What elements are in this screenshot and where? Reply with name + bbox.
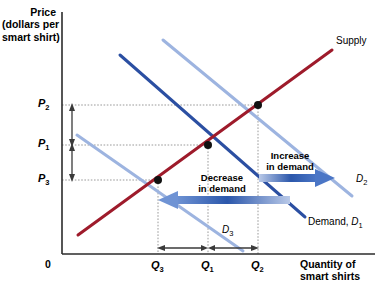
price-guide-lines: [62, 105, 258, 180]
diagram-canvas: [0, 0, 381, 289]
quantity-arrow-left-tail: [201, 245, 208, 251]
price-change-arrows: [69, 103, 75, 182]
quantity-tick-q2-sub: 2: [260, 265, 264, 274]
increase-in-demand-line1: Increase: [254, 150, 326, 161]
x-axis-title-line1: Quantity of: [300, 258, 360, 270]
price-tick-p1-sub: 1: [45, 143, 49, 152]
demand-curve-d1-label-letter: D: [351, 216, 358, 227]
quantity-arrow-left-head: [157, 245, 165, 251]
demand-curve-d1-label-text: Demand,: [308, 216, 351, 227]
x-axis-title: Quantity of smart shirts: [300, 258, 360, 283]
price-arrow-up-head: [69, 103, 75, 111]
quantity-tick-q3-sub: 3: [160, 265, 164, 274]
quantity-tick-q1-sub: 1: [210, 265, 214, 274]
y-axis-title-line1: Price: [2, 6, 56, 18]
supply-curve-label: Supply: [336, 35, 367, 47]
equilibrium-point-e1: [204, 141, 212, 149]
equilibrium-point-e3: [154, 176, 162, 184]
quantity-arrow-right-tail: [208, 245, 215, 251]
decrease-in-demand-label: Decrease in demand: [185, 172, 259, 194]
decrease-in-demand-line1: Decrease: [185, 172, 259, 183]
price-arrow-down-tail: [69, 143, 75, 151]
price-tick-p2: P2: [38, 97, 50, 113]
quantity-tick-q2-letter: Q: [251, 259, 260, 271]
price-tick-p3: P3: [38, 172, 50, 188]
quantity-tick-q1-letter: Q: [201, 259, 210, 271]
increase-in-demand-label: Increase in demand: [254, 150, 326, 172]
y-axis-title: Price (dollars per smart shirt): [2, 6, 56, 43]
quantity-tick-q2: Q2: [251, 259, 264, 275]
supply-demand-diagram: Price (dollars per smart shirt) Quantity…: [0, 0, 381, 289]
demand-curve-d2-label: D2: [356, 173, 367, 188]
x-axis-title-line2: smart shirts: [300, 270, 360, 282]
demand-curve-d1-label: Demand, D1: [308, 216, 363, 231]
origin-label: 0: [45, 258, 51, 270]
price-tick-p1: P1: [38, 137, 50, 153]
equilibrium-point-e2: [254, 101, 262, 109]
price-tick-p3-sub: 3: [45, 178, 49, 187]
price-arrow-down-head: [69, 174, 75, 182]
demand-curve-d3-label: D3: [222, 224, 233, 239]
demand-curve-d3-label-sub: 3: [229, 229, 233, 238]
quantity-tick-q3: Q3: [151, 259, 164, 275]
decrease-in-demand-line2: in demand: [185, 183, 259, 194]
demand-curve-d2-label-sub: 2: [363, 178, 367, 187]
quantity-tick-q3-letter: Q: [151, 259, 160, 271]
y-axis-title-line2: (dollars per: [2, 18, 56, 30]
demand-curve-d1-label-sub: 1: [359, 221, 363, 230]
y-axis-title-line3: smart shirt): [2, 31, 56, 43]
increase-in-demand-line2: in demand: [254, 161, 326, 172]
price-tick-p2-sub: 2: [45, 103, 49, 112]
quantity-tick-q1: Q1: [201, 259, 214, 275]
